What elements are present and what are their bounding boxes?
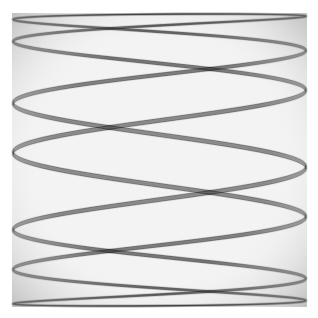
lissajous-pattern <box>0 0 318 318</box>
harmonograph-image <box>0 0 318 318</box>
edge-shading <box>12 13 307 307</box>
